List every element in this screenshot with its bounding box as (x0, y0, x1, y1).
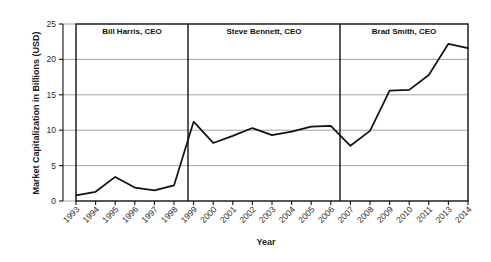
x-axis-title-text: Year (256, 237, 276, 247)
y-tick-label: 15 (47, 90, 57, 100)
ceo-annotations: Bill Harris, CEOSteve Bennett, CEOBrad S… (102, 27, 436, 36)
y-axis-title-text: Market Capitalization in Billions (USD) (31, 31, 41, 194)
y-tick-label: 10 (47, 125, 57, 135)
ceo-label-1: Bill Harris, CEO (102, 27, 162, 36)
ceo-label-2: Steve Bennett, CEO (226, 27, 301, 36)
y-tick-label: 0 (51, 196, 56, 206)
y-tick-label: 20 (47, 54, 57, 64)
chart-svg: Market Capitalization in Billions (USD) … (0, 0, 491, 262)
market-capitalization-line-chart: Market Capitalization in Billions (USD) … (0, 0, 491, 262)
y-axis-title: Market Capitalization in Billions (USD) (31, 31, 41, 194)
y-tick-label: 25 (47, 19, 57, 29)
y-tick-label: 5 (51, 161, 56, 171)
ceo-label-3: Brad Smith, CEO (372, 27, 436, 36)
